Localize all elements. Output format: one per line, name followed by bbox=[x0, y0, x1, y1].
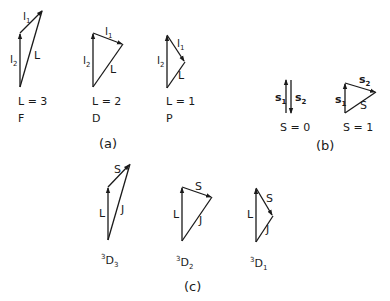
vector-triangle-3D2 bbox=[182, 187, 212, 241]
label-l1-D: l1 bbox=[105, 26, 113, 37]
label-l2-D: l2 bbox=[83, 55, 91, 66]
label-s1-S1: s1 bbox=[335, 94, 346, 105]
label-l2-P: l2 bbox=[157, 55, 165, 66]
label-L-F: L bbox=[34, 50, 40, 61]
term-D: D bbox=[92, 113, 100, 124]
label-L-3D2: L bbox=[173, 209, 179, 220]
term-P: P bbox=[166, 113, 173, 124]
caption-c: (c) bbox=[184, 280, 201, 293]
label-S-3D1: S bbox=[266, 193, 273, 204]
label-S-S1: S bbox=[360, 100, 367, 111]
label-J-3D2: J bbox=[199, 215, 202, 226]
label-L-D: L bbox=[110, 64, 116, 75]
label-J-3D1: J bbox=[266, 224, 269, 235]
label-s2-S0: s2 bbox=[295, 92, 306, 103]
vector-triangle-D bbox=[93, 33, 123, 87]
label-s1-S0: s1 bbox=[275, 92, 286, 103]
label-S-3D3: S bbox=[114, 164, 121, 175]
label-L-P: L bbox=[178, 70, 184, 81]
label-L-3D3: L bbox=[99, 208, 105, 219]
term-3D3: 3D3 bbox=[101, 255, 118, 266]
label-s2-S1: s2 bbox=[359, 74, 370, 85]
antiparallel-spins-S0 bbox=[286, 80, 291, 113]
label-l1-P: l1 bbox=[177, 38, 185, 49]
caption-b: (b) bbox=[316, 139, 334, 152]
label-J-3D3: J bbox=[121, 204, 124, 215]
caption-a: (a) bbox=[99, 137, 117, 150]
value-L3: L = 3 bbox=[18, 96, 47, 107]
value-S0: S = 0 bbox=[280, 122, 310, 133]
value-L1: L = 1 bbox=[166, 96, 195, 107]
label-S-3D2: S bbox=[195, 181, 202, 192]
value-S1: S = 1 bbox=[343, 122, 373, 133]
label-L-3D1: L bbox=[247, 209, 253, 220]
term-3D2: 3D2 bbox=[176, 257, 193, 268]
value-L2: L = 2 bbox=[92, 96, 121, 107]
label-l1-F: l1 bbox=[23, 11, 31, 22]
term-3D1: 3D1 bbox=[250, 258, 267, 269]
label-l2-F: l2 bbox=[10, 54, 18, 65]
term-F: F bbox=[18, 113, 24, 124]
